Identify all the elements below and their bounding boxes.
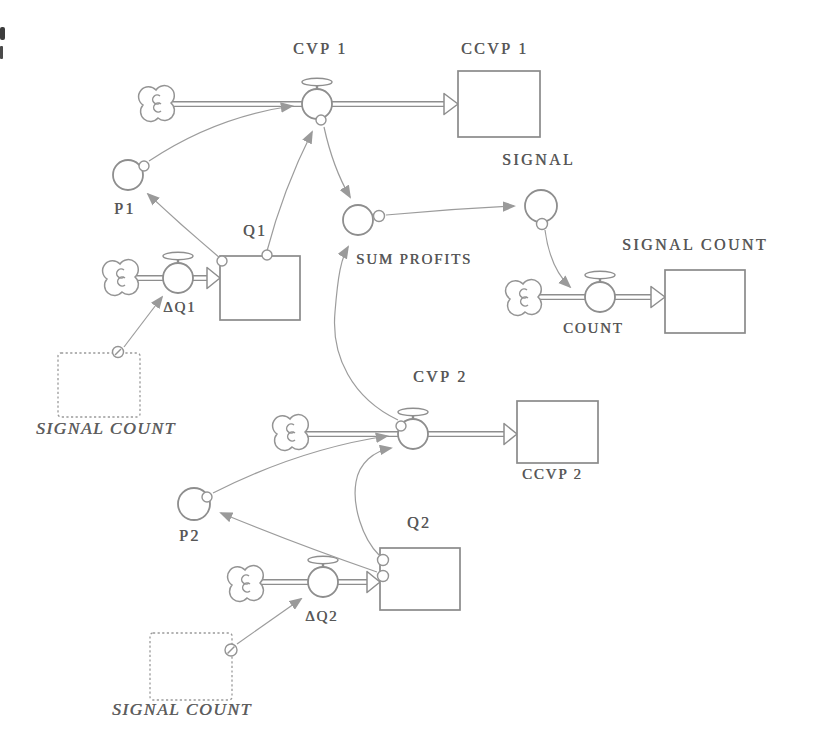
ghost-signal-count-1: [58, 353, 140, 417]
label-dq2: ΔQ2: [305, 609, 338, 624]
flow-pipes: [135, 102, 652, 585]
label-cvp2: CVP 2: [413, 369, 468, 385]
stock-q1: [220, 256, 300, 320]
connector-q2-to-p2: [221, 513, 377, 572]
label-sum-profits: SUM PROFITS: [356, 252, 472, 267]
flow-arrowhead-into-ccvp1: [444, 94, 458, 115]
label-ghost2: SIGNAL COUNT: [112, 701, 252, 719]
cloud-source-cvp1: [139, 86, 175, 122]
port-q1-corner: [217, 256, 227, 266]
valve-dq2: [308, 556, 338, 597]
valve-count: [585, 271, 615, 312]
scan-smudge: [0, 27, 5, 40]
label-ghost1: SIGNAL COUNT: [36, 420, 176, 438]
stock-ccvp1: [458, 71, 540, 137]
connector-ghost1-to-dq1: [124, 297, 162, 347]
label-q1: Q1: [243, 223, 267, 239]
label-cvp1: CVP 1: [293, 41, 348, 57]
connector-q1-to-cvp1: [267, 132, 312, 251]
connector-q1-to-p1: [148, 194, 220, 258]
valve-dq1: [163, 252, 193, 293]
stock-ccvp2: [517, 401, 598, 463]
port-valve-cvp1: [316, 115, 326, 125]
cloud-source-cvp2: [273, 415, 309, 451]
stock-signal-count: [665, 270, 745, 333]
port-valve-cvp2: [396, 421, 406, 431]
port-sum-profits: [374, 211, 385, 222]
port-q2-lower: [378, 571, 389, 582]
connector-cvp2-to-sum-profits: [335, 247, 398, 420]
converter-signal: [525, 190, 557, 222]
port-p1: [139, 161, 149, 171]
converter-p1: [113, 160, 143, 190]
flow-arrowhead-into-signal-count: [651, 287, 665, 308]
label-count: COUNT: [563, 321, 624, 336]
connector-q2-to-cvp2: [355, 448, 391, 555]
port-ghost1: [113, 347, 124, 358]
label-signal: SIGNAL: [502, 152, 575, 168]
connector-ghost2-to-dq2: [237, 599, 301, 644]
label-dq1: ΔQ1: [163, 300, 196, 315]
cloud-source-dq1: [103, 260, 139, 296]
label-ccvp1: CCVP 1: [461, 41, 529, 57]
port-ghost2: [225, 644, 237, 656]
stock-flow-diagram-canvas: [0, 0, 816, 751]
scanned-diagram-page: CVP 1 CCVP 1 P1 Q1 ΔQ1 SIGNAL COUNT SUM …: [0, 0, 816, 751]
flow-arrowhead-into-q1: [207, 268, 220, 289]
label-q2: Q2: [407, 515, 431, 531]
flow-arrowheads: [207, 94, 665, 593]
converter-sum-profits: [343, 205, 373, 235]
label-ccvp2: CCVP 2: [522, 467, 583, 482]
port-p2: [202, 492, 212, 502]
cloud-source-count: [506, 280, 542, 316]
connector-sum-profits-to-signal: [386, 206, 514, 215]
scan-smudge: [0, 46, 3, 59]
port-signal: [537, 219, 548, 230]
port-q2-upper: [378, 555, 389, 566]
connector-cvp1-to-sum-profits: [324, 127, 350, 197]
stock-q2: [380, 548, 460, 610]
cloud-source-dq2: [228, 566, 264, 602]
label-signal-count: SIGNAL COUNT: [622, 237, 768, 253]
label-p2: P2: [179, 528, 201, 544]
port-q1-top: [262, 250, 272, 260]
connector-signal-to-count: [545, 230, 570, 287]
valve-cvp1: [302, 78, 332, 119]
label-p1: P1: [114, 201, 136, 217]
ghost-signal-count-2: [150, 633, 232, 700]
flow-arrowhead-into-ccvp2: [504, 424, 517, 445]
